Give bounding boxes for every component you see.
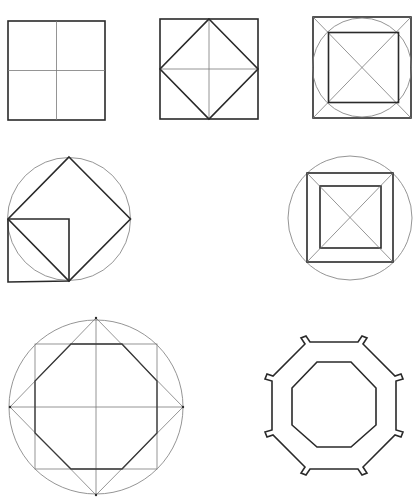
outer-octagon-with-tabs: [265, 336, 403, 475]
right-vertex-dot: [182, 406, 184, 408]
figure-square-circle-inner-square: [313, 17, 412, 118]
figure-circle-diamond-small-square: [8, 157, 131, 282]
figure-octagon-frame-with-tabs: [265, 336, 403, 475]
figure-circle-double-square-frame: [288, 156, 412, 280]
inner-square: [329, 33, 399, 103]
bottom-vertex-dot: [95, 494, 97, 496]
figure-octagon-construction: [9, 317, 184, 496]
figure-square-inscribed-diamond: [160, 19, 258, 119]
left-vertex-dot: [9, 406, 11, 408]
figure-square-quartered: [8, 21, 105, 120]
figures-canvas: [0, 0, 419, 498]
top-vertex-dot: [95, 317, 97, 319]
inner-octagon: [292, 362, 376, 447]
